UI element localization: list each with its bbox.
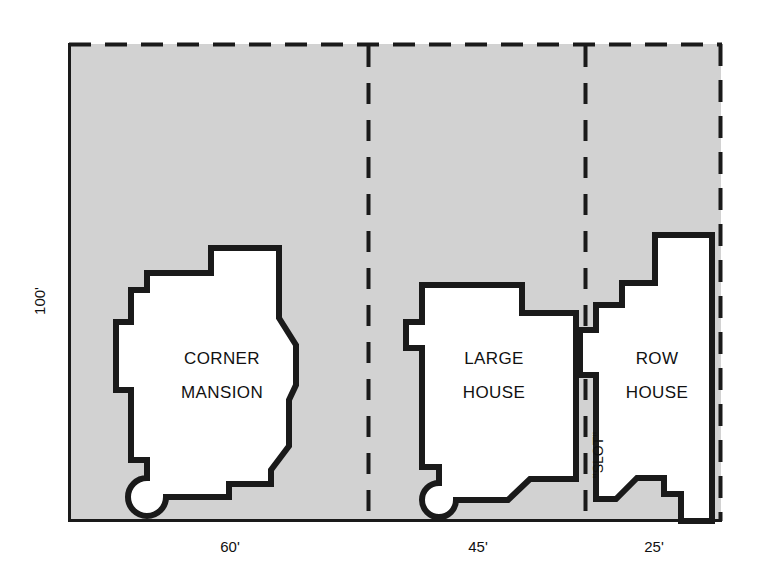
lot-width-label-45: 45' bbox=[468, 538, 488, 555]
corner-mansion-label-line2: MANSION bbox=[181, 383, 263, 402]
depth-dimension-label: 100' bbox=[31, 287, 48, 315]
large-house-label-line2: HOUSE bbox=[463, 383, 525, 402]
row-house-label-line1: ROW bbox=[636, 349, 679, 368]
corner-mansion-outline bbox=[116, 248, 296, 516]
plan-drawing: CORNER MANSION LARGE HOUSE ROW HOUSE "SL… bbox=[0, 0, 757, 584]
large-house-label-line1: LARGE bbox=[464, 349, 524, 368]
corner-mansion-footprint[interactable]: CORNER MANSION bbox=[116, 248, 296, 516]
corner-mansion-label-line1: CORNER bbox=[184, 349, 260, 368]
slot-annotation-label: "SLOT" bbox=[590, 432, 606, 479]
row-house-label-line2: HOUSE bbox=[626, 383, 688, 402]
lot-diagram: CORNER MANSION LARGE HOUSE ROW HOUSE "SL… bbox=[0, 0, 757, 584]
lot-width-label-60: 60' bbox=[220, 538, 240, 555]
lot-width-label-25: 25' bbox=[644, 538, 664, 555]
